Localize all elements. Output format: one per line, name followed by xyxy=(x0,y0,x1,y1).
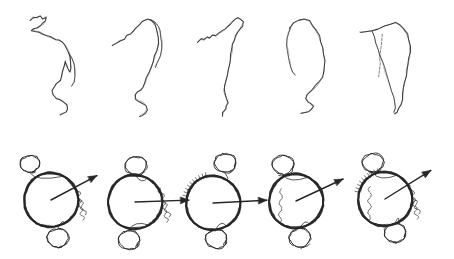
figure-canvas xyxy=(0,0,454,259)
figure-root xyxy=(0,0,454,259)
